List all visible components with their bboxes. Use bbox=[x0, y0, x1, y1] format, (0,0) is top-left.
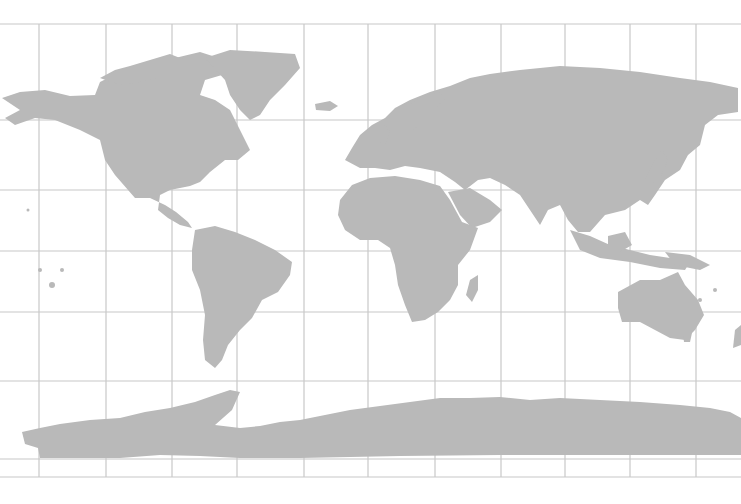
south-america bbox=[192, 226, 292, 368]
australia bbox=[618, 272, 704, 340]
tasmania bbox=[683, 333, 692, 342]
new-zealand bbox=[733, 325, 741, 348]
world-map bbox=[0, 0, 741, 504]
borneo bbox=[608, 232, 632, 252]
antarctica bbox=[22, 390, 741, 458]
iceland bbox=[315, 101, 338, 111]
madagascar bbox=[466, 275, 478, 302]
